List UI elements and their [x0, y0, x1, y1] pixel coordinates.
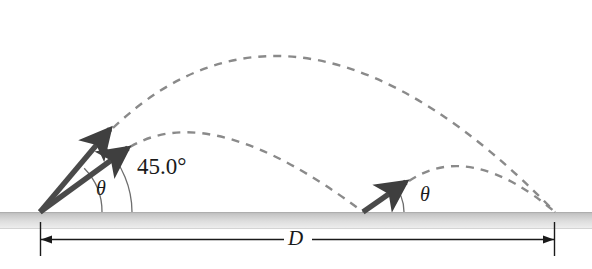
high-trajectory [113, 56, 555, 212]
distance-label-d: D [288, 228, 303, 249]
second-launch-trajectory [409, 166, 555, 212]
trajectory-group [113, 56, 555, 212]
theta-label-right: θ [420, 184, 430, 204]
angle-arc-group [84, 147, 404, 212]
second-launch-velocity-arrow [363, 182, 406, 212]
angle-45-label: 45.0° [137, 155, 186, 178]
projectile-range-figure: θ 45.0° θ D [0, 0, 592, 269]
theta-label-left: θ [96, 178, 106, 198]
velocity-arrow-group [40, 129, 406, 212]
